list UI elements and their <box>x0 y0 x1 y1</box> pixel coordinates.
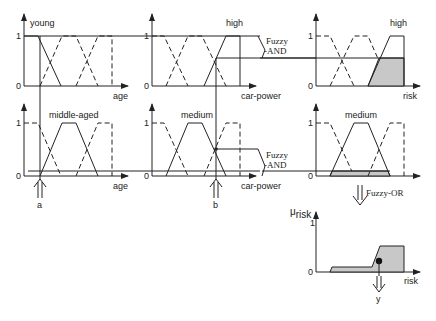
input-b-arrow-icon <box>210 179 222 198</box>
set-label-young: young <box>30 18 55 28</box>
y-tick-0: 0 <box>144 81 149 91</box>
y-tick-1: 1 <box>310 218 315 228</box>
axis-label-car-power: car-power <box>241 91 281 101</box>
y-tick-1: 1 <box>16 118 21 128</box>
axis-label-risk: risk <box>404 276 418 286</box>
y-tick-0: 0 <box>308 267 313 277</box>
fuzzy-inference-diagram: 1 0 young age 1 0 high car-power 1 0 hig… <box>0 0 436 321</box>
fuzzy-and-label-2: Fuzzy <box>266 150 288 160</box>
axis-label-age: age <box>113 181 128 191</box>
chart-output-risk: μrisk 1 0 risk <box>290 206 420 286</box>
set-label-medium: medium <box>345 110 377 120</box>
y-tick-1: 1 <box>308 118 313 128</box>
y-tick-1: 1 <box>308 31 313 41</box>
y-tick-0: 0 <box>308 171 313 181</box>
fuzzy-and-label-1: Fuzzy <box>266 36 288 46</box>
y-tick-0: 0 <box>144 171 149 181</box>
input-a-label: a <box>37 200 42 210</box>
set-label-high: high <box>390 18 407 28</box>
y-tick-1: 1 <box>144 118 149 128</box>
input-a-arrow-icon <box>34 179 46 198</box>
set-label-medium: medium <box>181 110 213 120</box>
chart-age-young: 1 0 young age <box>16 14 128 101</box>
fuzzy-or-label: Fuzzy-OR <box>366 188 404 198</box>
fuzzy-or-arrow-icon <box>353 185 367 205</box>
fuzzy-and-label-1b: -AND <box>264 46 287 56</box>
mu-risk-label: μrisk <box>290 206 312 220</box>
output-y-arrow-icon <box>373 276 385 292</box>
y-tick-0: 0 <box>308 81 313 91</box>
axis-label-risk: risk <box>403 91 417 101</box>
chart-carpower-medium: 1 0 medium car-power <box>144 104 281 191</box>
set-label-high: high <box>226 18 243 28</box>
axis-label-car-power: car-power <box>241 181 281 191</box>
chart-risk-medium: 1 0 medium <box>308 104 420 181</box>
y-tick-0: 0 <box>16 81 21 91</box>
y-tick-0: 0 <box>16 171 21 181</box>
fuzzy-and-label-2b: -AND <box>264 160 287 170</box>
set-label-middle-aged: middle-aged <box>49 110 99 120</box>
axis-label-age: age <box>113 91 128 101</box>
chart-age-middle-aged: 1 0 middle-aged age <box>16 104 128 191</box>
input-b-label: b <box>213 200 218 210</box>
output-y-label: y <box>376 294 381 304</box>
y-tick-1: 1 <box>16 31 21 41</box>
